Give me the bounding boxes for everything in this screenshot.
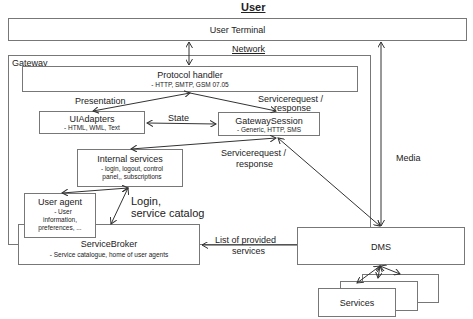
arrow-internal-useragent (62, 188, 128, 193)
arrow-dms-services-1 (357, 266, 380, 283)
arrow-session-internal (131, 138, 276, 149)
arrow-state (147, 123, 216, 124)
arrow-servicerequest-1 (190, 93, 276, 111)
connector-layer (0, 0, 473, 319)
arrow-presentation (93, 93, 190, 111)
arrow-dms-services-3 (380, 266, 400, 274)
arrow-session-dms (278, 138, 380, 226)
arrow-internal-broker (111, 188, 128, 224)
